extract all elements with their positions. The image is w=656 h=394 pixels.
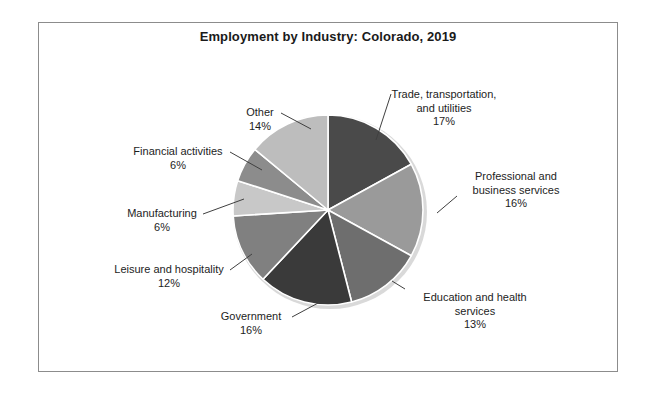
slice-value-professional: 16%: [447, 197, 585, 211]
slice-label-professional-line2: business services: [473, 184, 560, 196]
slice-label-trade-line1: Trade, transportation,: [392, 88, 497, 100]
slice-value-manufacturing: 6%: [120, 221, 204, 235]
slice-label-education-line2: services: [455, 305, 495, 317]
slice-label-professional-line1: Professional and: [475, 170, 557, 182]
slice-label-financial: Financial activities 6%: [126, 145, 230, 172]
slice-label-education: Education and health services 13%: [400, 291, 550, 332]
slice-value-education: 13%: [400, 318, 550, 332]
slice-value-other: 14%: [238, 120, 282, 134]
slice-label-trade-line2: and utilities: [416, 102, 471, 114]
chart-title: Employment by Industry: Colorado, 2019: [0, 29, 656, 44]
slice-value-financial: 6%: [126, 159, 230, 173]
slice-label-other: Other 14%: [238, 106, 282, 133]
slice-label-professional: Professional and business services 16%: [447, 170, 585, 211]
slice-label-manufacturing: Manufacturing 6%: [120, 207, 204, 234]
slice-label-other-line1: Other: [246, 106, 274, 118]
slice-label-manufacturing-line1: Manufacturing: [127, 207, 197, 219]
slice-value-government: 16%: [208, 324, 294, 338]
slice-label-government: Government 16%: [208, 310, 294, 337]
slice-label-leisure: Leisure and hospitality 12%: [106, 263, 232, 290]
slice-label-financial-line1: Financial activities: [133, 145, 222, 157]
slice-label-leisure-line1: Leisure and hospitality: [114, 263, 223, 275]
slice-label-trade: Trade, transportation, and utilities 17%: [366, 88, 522, 129]
slice-label-education-line1: Education and health: [423, 291, 526, 303]
slice-value-trade: 17%: [366, 115, 522, 129]
slice-value-leisure: 12%: [106, 277, 232, 291]
slice-label-government-line1: Government: [221, 310, 282, 322]
